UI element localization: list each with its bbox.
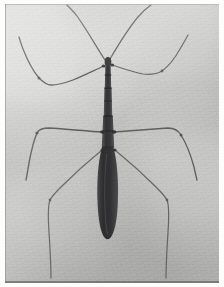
midleg-left-path (26, 128, 102, 180)
hindleg-right-path (115, 150, 169, 278)
prothorax-shape (105, 66, 111, 88)
foreleg-left-path (19, 37, 104, 85)
photograph-page (0, 0, 224, 287)
abdomen-shape (97, 147, 118, 239)
foreleg-right-path (112, 35, 188, 74)
stick-insect-specimen (5, 4, 219, 283)
head-shape (105, 57, 112, 67)
plate-edge-top (5, 4, 219, 5)
mesothorax-shape (104, 88, 112, 116)
antenna-right-path (110, 4, 152, 59)
plate-edge-left (5, 4, 6, 283)
hindleg-left-path (48, 150, 102, 278)
plate-edge-bottom (5, 281, 219, 283)
midleg-right-path (114, 128, 197, 180)
photographic-plate (5, 4, 219, 283)
antenna-left-path (66, 4, 105, 60)
